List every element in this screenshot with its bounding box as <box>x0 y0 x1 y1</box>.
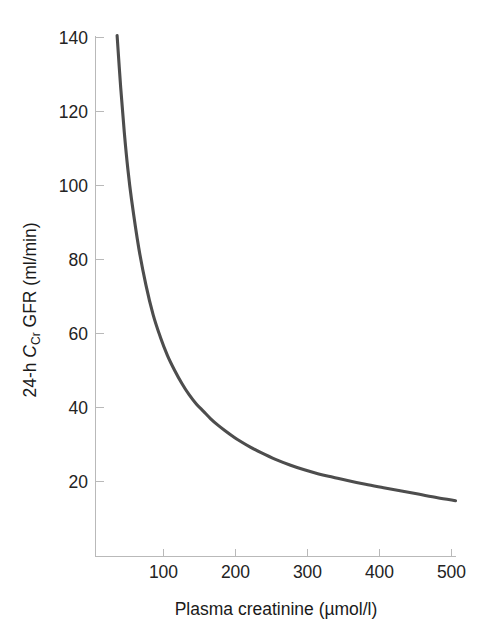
x-tick-label: 300 <box>293 562 322 582</box>
y-tick-label: 120 <box>59 102 88 122</box>
y-tick-label: 140 <box>59 28 88 48</box>
y-axis-title: 24-h CCr GFR (ml/min) <box>20 222 43 397</box>
y-axis-title-symbol: C <box>20 345 40 358</box>
x-tick-label: 200 <box>221 562 250 582</box>
y-axis-title-prefix: 24-h <box>20 358 40 398</box>
y-axis-title-suffix: GFR (ml/min) <box>20 222 40 332</box>
y-tick-label: 60 <box>69 324 89 344</box>
x-tick-label: 100 <box>149 562 178 582</box>
y-axis-title-subscript: Cr <box>29 332 43 345</box>
x-axis-title: Plasma creatinine (µmol/l) <box>175 599 378 619</box>
x-tick-label: 400 <box>365 562 394 582</box>
y-tick-label: 80 <box>69 250 89 270</box>
figure-background <box>0 0 497 644</box>
y-tick-label: 100 <box>59 176 88 196</box>
x-tick-label: 500 <box>437 562 466 582</box>
y-tick-label: 20 <box>69 472 89 492</box>
chart-figure: 140 120 100 80 60 40 20 100 200 300 400 … <box>0 0 497 644</box>
chart-canvas: 140 120 100 80 60 40 20 100 200 300 400 … <box>0 0 497 644</box>
y-tick-label: 40 <box>69 398 89 418</box>
